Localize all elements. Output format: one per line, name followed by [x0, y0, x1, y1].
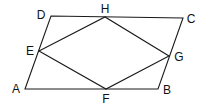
parallelogram-abcd	[25, 16, 183, 89]
vertex-label-f: F	[102, 92, 109, 106]
vertex-label-g: G	[174, 50, 183, 64]
vertex-label-d: D	[37, 8, 46, 22]
vertex-label-h: H	[101, 2, 110, 16]
vertex-label-e: E	[26, 44, 34, 58]
vertex-label-b: B	[163, 83, 171, 97]
geometry-diagram: A B C D E F G H	[0, 0, 202, 107]
vertex-label-c: C	[187, 12, 196, 26]
vertex-label-a: A	[12, 82, 20, 96]
quadrilateral-efgh	[39, 17, 169, 89]
